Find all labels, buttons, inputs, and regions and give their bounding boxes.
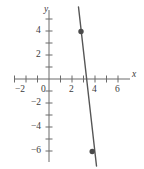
- x-tick-label-neg2: −2: [15, 85, 25, 95]
- data-point: [90, 149, 95, 154]
- x-tick-label-4: 4: [92, 85, 97, 95]
- y-tick-label-neg4: −4: [31, 122, 41, 132]
- y-tick-label-2: 2: [36, 50, 41, 60]
- y-axis: [46, 10, 53, 162]
- graph-figure: −2 0 2 4 6 4 2 −2 −4 −6 x y: [0, 0, 144, 169]
- x-tick-label-0: 0: [41, 85, 46, 95]
- x-tick-label-2: 2: [69, 85, 74, 95]
- y-tick-label-neg6: −6: [31, 146, 41, 156]
- data-point: [78, 29, 83, 34]
- x-tick-label-6: 6: [115, 85, 120, 95]
- y-tick-label-neg2: −2: [31, 98, 41, 108]
- y-axis-label: y: [44, 5, 48, 15]
- x-axis: [14, 76, 130, 83]
- x-axis-label: x: [132, 70, 136, 80]
- y-tick-label-4: 4: [36, 26, 41, 36]
